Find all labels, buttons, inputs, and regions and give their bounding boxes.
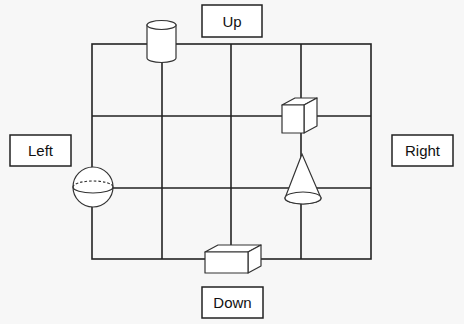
label-right-text: Right [405,142,441,159]
grid [92,44,371,259]
direction-grid-diagram: Up Down Left Right [0,0,464,324]
label-down-text: Down [213,294,251,311]
cube-icon [282,98,317,133]
label-up-text: Up [222,13,241,30]
label-left: Left [10,135,71,166]
cone-icon [285,154,321,204]
label-up: Up [202,5,262,37]
label-right: Right [392,135,453,166]
label-down: Down [202,287,263,318]
rectangular-box-icon [205,245,261,273]
cylinder-icon [147,21,176,63]
label-left-text: Left [28,142,54,159]
sphere-icon [73,167,113,207]
